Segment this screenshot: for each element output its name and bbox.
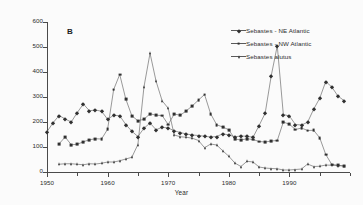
data-point bbox=[264, 166, 266, 169]
data-point bbox=[324, 153, 327, 156]
legend-symbol bbox=[231, 26, 246, 35]
data-point bbox=[137, 143, 139, 146]
x-tick-mark bbox=[77, 173, 78, 176]
y-tick-label: 100 bbox=[32, 142, 43, 149]
data-point bbox=[246, 137, 249, 140]
data-point bbox=[222, 149, 224, 152]
data-point bbox=[136, 119, 139, 122]
data-point bbox=[246, 160, 248, 163]
legend-label: Sebastes alutus bbox=[246, 53, 292, 60]
data-point bbox=[198, 139, 200, 142]
series-line bbox=[59, 75, 344, 167]
data-point bbox=[185, 136, 187, 139]
data-point bbox=[112, 88, 115, 91]
data-point bbox=[119, 159, 121, 162]
data-point bbox=[155, 80, 157, 83]
y-tick-label: 300 bbox=[32, 92, 43, 99]
x-tick-label: 1970 bbox=[161, 179, 175, 186]
y-tick-label: 0 bbox=[39, 167, 43, 174]
data-point bbox=[228, 155, 230, 158]
data-point bbox=[288, 168, 290, 171]
data-point bbox=[130, 114, 133, 117]
data-point bbox=[227, 128, 230, 131]
data-point bbox=[324, 80, 328, 84]
data-point bbox=[300, 127, 303, 130]
data-point bbox=[313, 165, 315, 168]
data-point bbox=[337, 164, 339, 167]
data-point bbox=[113, 160, 115, 163]
data-point bbox=[318, 136, 321, 139]
x-tick-mark bbox=[47, 173, 48, 177]
data-point bbox=[210, 142, 212, 145]
data-point bbox=[276, 139, 279, 142]
data-point bbox=[88, 162, 90, 165]
x-tick-label: 1980 bbox=[222, 179, 236, 186]
data-point bbox=[197, 134, 201, 138]
data-point bbox=[161, 99, 163, 102]
data-point bbox=[143, 85, 145, 88]
data-point bbox=[167, 123, 170, 126]
x-tick-mark bbox=[199, 173, 200, 176]
x-tick-mark bbox=[289, 173, 290, 177]
data-point bbox=[143, 118, 146, 121]
data-point bbox=[264, 141, 267, 144]
x-tick-mark bbox=[229, 173, 230, 177]
triangle-marker-icon bbox=[238, 55, 240, 58]
y-tick-label: 400 bbox=[32, 67, 43, 74]
data-point bbox=[204, 146, 206, 149]
data-point bbox=[131, 156, 133, 159]
data-point bbox=[173, 113, 176, 116]
data-point bbox=[312, 129, 315, 132]
data-point bbox=[58, 163, 60, 166]
x-tick-mark bbox=[259, 173, 260, 176]
chart-figure: 0100200300400500600 19501960197019801990… bbox=[0, 0, 363, 205]
data-point bbox=[197, 99, 200, 102]
data-point bbox=[252, 160, 254, 163]
x-tick-mark bbox=[138, 173, 139, 176]
data-point bbox=[70, 143, 73, 146]
data-point bbox=[276, 167, 278, 170]
data-point bbox=[118, 73, 121, 76]
data-point bbox=[252, 138, 255, 141]
data-point bbox=[325, 163, 327, 166]
legend-item[interactable]: Sebastes - NW Atlantic bbox=[231, 37, 359, 50]
data-point bbox=[124, 98, 127, 101]
data-point bbox=[64, 136, 67, 139]
data-point bbox=[70, 162, 72, 165]
data-point bbox=[155, 114, 158, 117]
data-point bbox=[179, 114, 182, 117]
data-point bbox=[282, 168, 284, 171]
data-point bbox=[307, 162, 309, 165]
data-point bbox=[331, 164, 333, 167]
data-point bbox=[58, 142, 61, 145]
legend-item[interactable]: Sebastes - NE Atlantic bbox=[231, 24, 359, 37]
data-point bbox=[149, 112, 152, 115]
data-point bbox=[215, 123, 218, 126]
y-tick-label: 600 bbox=[32, 17, 43, 24]
legend-label: Sebastes - NW Atlantic bbox=[246, 40, 311, 47]
data-point bbox=[107, 160, 109, 163]
x-tick-mark bbox=[320, 173, 321, 176]
data-point bbox=[306, 129, 309, 132]
legend-item[interactable]: Sebastes alutus bbox=[231, 50, 359, 63]
data-point bbox=[234, 161, 236, 164]
data-point bbox=[64, 162, 66, 165]
data-point bbox=[288, 123, 291, 126]
x-axis-title: Year bbox=[0, 189, 363, 196]
data-point bbox=[343, 164, 345, 167]
data-point bbox=[294, 168, 296, 171]
data-point bbox=[258, 165, 260, 168]
x-tick-label: 1990 bbox=[282, 179, 296, 186]
data-point bbox=[282, 121, 285, 124]
diamond-marker-icon bbox=[237, 29, 241, 33]
x-tick-label: 1950 bbox=[40, 179, 54, 186]
data-point bbox=[106, 128, 109, 131]
data-point bbox=[240, 139, 243, 142]
data-point bbox=[100, 138, 103, 141]
data-point bbox=[191, 137, 193, 140]
data-point bbox=[258, 140, 261, 143]
data-point bbox=[76, 143, 79, 146]
data-point bbox=[301, 167, 303, 170]
data-point bbox=[233, 138, 236, 141]
data-point bbox=[101, 162, 103, 165]
